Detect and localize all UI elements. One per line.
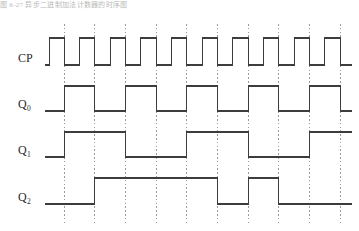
- signal-label-q1: Q: [18, 143, 27, 157]
- timing-diagram-figure: 图 6-27 异步二进制加法计数器的时序图 CP Q 0 Q 1 Q 2: [0, 0, 359, 231]
- waveform-q1: [45, 132, 352, 157]
- waveform-group: [45, 38, 352, 204]
- waveform-q0: [45, 86, 352, 111]
- signal-label-q1-subscript: 1: [27, 150, 31, 159]
- signal-label-group: CP Q 0 Q 1 Q 2: [18, 51, 33, 206]
- signal-label-q0-subscript: 0: [27, 104, 31, 113]
- signal-label-q2-subscript: 2: [27, 197, 31, 206]
- signal-label-q0: Q: [18, 97, 27, 111]
- waveform-canvas: CP Q 0 Q 1 Q 2: [0, 10, 359, 231]
- waveform-q2: [45, 178, 352, 204]
- waveform-cp: [45, 38, 352, 65]
- waveform-plot-area: CP Q 0 Q 1 Q 2: [0, 10, 359, 231]
- figure-caption: 图 6-27 异步二进制加法计数器的时序图: [0, 0, 359, 10]
- signal-label-cp: CP: [18, 51, 33, 65]
- signal-label-q2: Q: [18, 190, 27, 204]
